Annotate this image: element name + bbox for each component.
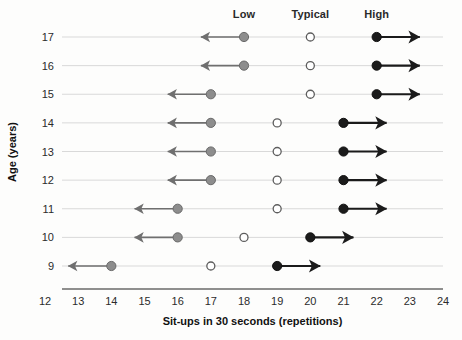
y-axis-title: Age (years) [6,112,18,192]
y-tick-label-17: 17 [20,31,54,43]
point-low-age-12 [206,176,215,185]
point-low-age-17 [239,32,248,41]
y-tick-label-13: 13 [20,146,54,158]
y-tick-label-14: 14 [20,117,54,129]
point-typical-age-14 [273,119,281,127]
point-low-age-9 [107,261,116,270]
point-low-age-14 [206,118,215,127]
y-tick-label-12: 12 [20,174,54,186]
x-tick-label-13: 13 [72,295,84,307]
x-tick-label-23: 23 [404,295,416,307]
point-low-age-11 [173,204,182,213]
point-high-age-13 [339,147,348,156]
point-high-age-15 [372,90,381,99]
x-tick-label-19: 19 [271,295,283,307]
point-high-age-16 [372,61,381,70]
point-low-age-16 [239,61,248,70]
x-tick-label-16: 16 [172,295,184,307]
column-header-low: Low [233,8,255,20]
point-low-age-10 [173,233,182,242]
point-typical-age-11 [273,205,281,213]
point-low-age-13 [206,147,215,156]
point-low-age-15 [206,90,215,99]
point-high-age-17 [372,32,381,41]
column-header-high: High [364,8,389,20]
y-tick-label-16: 16 [20,60,54,72]
x-tick-label-21: 21 [337,295,349,307]
point-typical-age-17 [306,33,314,41]
x-tick-label-12: 12 [39,295,51,307]
y-tick-label-15: 15 [20,88,54,100]
point-typical-age-15 [306,90,314,98]
x-tick-label-15: 15 [138,295,150,307]
point-high-age-9 [273,261,282,270]
point-high-age-14 [339,118,348,127]
y-tick-label-9: 9 [20,260,54,272]
x-tick-label-24: 24 [437,295,449,307]
y-tick-label-10: 10 [20,231,54,243]
point-typical-age-16 [306,62,314,70]
x-tick-label-17: 17 [205,295,217,307]
x-tick-label-20: 20 [304,295,316,307]
point-typical-age-12 [273,176,281,184]
x-tick-label-22: 22 [371,295,383,307]
point-typical-age-9 [207,262,215,270]
chart-canvas [0,0,462,340]
x-tick-label-18: 18 [238,295,250,307]
point-typical-age-13 [273,148,281,156]
point-high-age-10 [306,233,315,242]
column-header-typical: Typical [291,8,329,20]
point-typical-age-10 [240,233,248,241]
y-tick-label-11: 11 [20,203,54,215]
point-high-age-11 [339,204,348,213]
point-high-age-12 [339,176,348,185]
x-axis-title: Sit-ups in 30 seconds (repetitions) [163,315,343,327]
x-tick-label-14: 14 [105,295,117,307]
sit-ups-by-age-chart: LowTypicalHigh91011121314151617121314151… [0,0,462,340]
